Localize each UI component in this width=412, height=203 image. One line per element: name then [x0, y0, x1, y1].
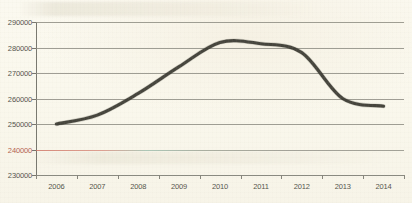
y-axis-label-290000: 290000	[0, 18, 32, 27]
x-axis-label-2010: 2010	[198, 182, 242, 191]
x-axis-label-2011: 2011	[239, 182, 283, 191]
series-svg	[36, 22, 404, 176]
x-axis-label-2007: 2007	[75, 182, 119, 191]
y-axis-label-270000: 270000	[0, 69, 32, 78]
x-axis-label-2014: 2014	[362, 182, 406, 191]
y-axis-label-230000: 230000	[0, 171, 32, 180]
x-axis-label-2013: 2013	[321, 182, 365, 191]
x-axis-label-2009: 2009	[157, 182, 201, 191]
y-axis-label-240000: 240000	[0, 146, 32, 155]
y-axis-label-280000: 280000	[0, 44, 32, 53]
scanned-page: 290000 280000 270000 260000 250000 24000…	[0, 0, 412, 203]
x-tick-9	[404, 175, 405, 179]
series-line	[56, 41, 383, 124]
x-axis-label-2008: 2008	[116, 182, 160, 191]
y-axis-label-260000: 260000	[0, 95, 32, 104]
plot-area: 2006 2007 2008 2009 2010 2011 2012 2013 …	[36, 22, 404, 175]
x-axis-label-2006: 2006	[34, 182, 78, 191]
line-chart: 290000 280000 270000 260000 250000 24000…	[0, 0, 412, 203]
y-axis-label-250000: 250000	[0, 120, 32, 129]
x-axis-label-2012: 2012	[280, 182, 324, 191]
